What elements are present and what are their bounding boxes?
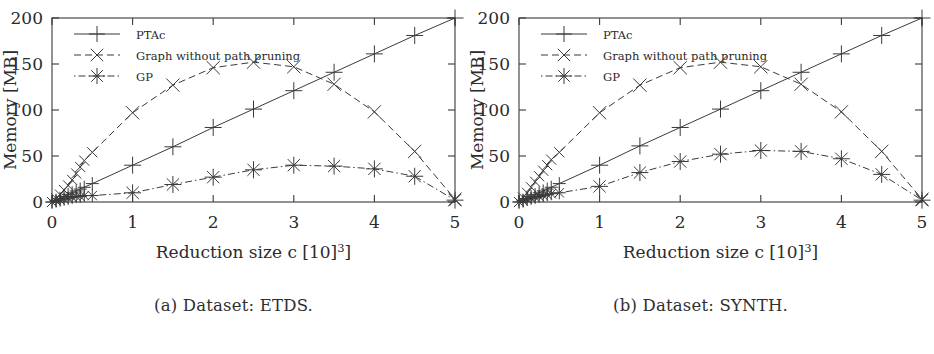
panel-b-caption: (b) Dataset: SYNTH. <box>467 296 934 315</box>
legend-label: GP <box>603 70 620 84</box>
series-graph-without-path-pruning <box>514 56 929 208</box>
x-tick-label: 3 <box>755 212 766 232</box>
series-gp <box>46 157 464 209</box>
x-axis-title-exponent: 3 <box>804 241 811 255</box>
y-tick-label: 0 <box>32 192 43 212</box>
x-tick-label: 3 <box>288 212 299 232</box>
legend-entry-ptac[interactable]: PTAc <box>541 26 633 42</box>
x-tick-label: 4 <box>369 212 380 232</box>
panel-a-caption: (a) Dataset: ETDS. <box>0 296 467 315</box>
legend-label: PTAc <box>136 28 166 42</box>
y-axis-title: Memory [MB] <box>0 50 20 170</box>
legend-entry-graph-without-path-pruning[interactable]: Graph without path pruning <box>541 49 768 63</box>
y-tick-label: 50 <box>488 146 510 166</box>
legend-label: GP <box>136 70 153 84</box>
x-axis-title: Reduction size c [10]3] <box>156 241 351 262</box>
series-graph-without-path-pruning <box>47 56 462 208</box>
chart-a-svg: 050100150200012345Reduction size c [10]3… <box>0 0 467 292</box>
legend-label: Graph without path pruning <box>136 49 301 63</box>
figure-two-panel-memory-charts: 050100150200012345Reduction size c [10]3… <box>0 0 934 354</box>
series-line <box>519 62 922 202</box>
chart-b-content: 050100150200012345Reduction size c [10]3… <box>467 8 931 262</box>
x-tick-label: 5 <box>917 212 928 232</box>
legend-label: Graph without path pruning <box>603 49 768 63</box>
x-tick-label: 5 <box>450 212 461 232</box>
legend-entry-gp[interactable]: GP <box>541 68 620 84</box>
series-ptac <box>513 10 931 209</box>
x-tick-label: 0 <box>514 212 525 232</box>
x-tick-label: 1 <box>594 212 605 232</box>
legend-label: PTAc <box>603 28 633 42</box>
x-axis-title-tail: ] <box>812 242 819 262</box>
y-tick-label: 200 <box>11 8 43 28</box>
x-tick-label: 0 <box>47 212 58 232</box>
legend-entry-gp[interactable]: GP <box>74 68 153 84</box>
y-tick-label: 200 <box>478 8 510 28</box>
y-tick-label: 0 <box>499 192 510 212</box>
series-gp <box>513 142 931 209</box>
chart-a: 050100150200012345Reduction size c [10]3… <box>0 0 467 292</box>
legend-entry-ptac[interactable]: PTAc <box>74 26 166 42</box>
x-tick-label: 4 <box>836 212 847 232</box>
x-axis-title-tail: ] <box>345 242 352 262</box>
x-axis-title: Reduction size c [10]3] <box>623 241 818 262</box>
x-tick-label: 1 <box>127 212 138 232</box>
series-ptac <box>46 10 464 209</box>
legend-entry-graph-without-path-pruning[interactable]: Graph without path pruning <box>74 49 301 63</box>
x-tick-label: 2 <box>675 212 686 232</box>
panel-b: 050100150200012345Reduction size c [10]3… <box>467 0 934 354</box>
x-tick-label: 2 <box>208 212 219 232</box>
y-axis-title: Memory [MB] <box>467 50 487 170</box>
chart-a-content: 050100150200012345Reduction size c [10]3… <box>0 8 464 262</box>
panel-a: 050100150200012345Reduction size c [10]3… <box>0 0 467 354</box>
y-tick-label: 50 <box>21 146 43 166</box>
series-line <box>52 62 455 202</box>
x-axis-title-exponent: 3 <box>337 241 344 255</box>
chart-b-svg: 050100150200012345Reduction size c [10]3… <box>467 0 934 292</box>
chart-b: 050100150200012345Reduction size c [10]3… <box>467 0 934 292</box>
